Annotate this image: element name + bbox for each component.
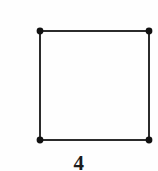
figure-background <box>0 0 158 171</box>
figure-caption: 4 <box>0 153 158 171</box>
vertex-bottom-left <box>37 137 44 144</box>
vertex-top-left <box>37 28 44 35</box>
square-graph-figure <box>0 0 158 171</box>
vertex-bottom-right <box>146 137 153 144</box>
vertex-top-right <box>146 28 153 35</box>
